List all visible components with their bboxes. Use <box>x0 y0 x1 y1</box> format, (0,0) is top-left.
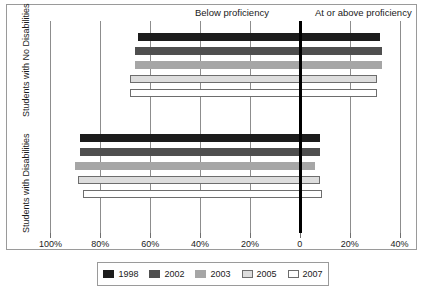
below-proficiency-label: Below proficiency <box>195 7 269 18</box>
bar-students-with-disabilities-1998 <box>80 134 319 142</box>
legend-label: 1998 <box>118 269 138 279</box>
axis-tick <box>50 233 51 238</box>
legend-label: 2002 <box>164 269 184 279</box>
chart-page: Students with No Disabilities Students w… <box>0 0 423 295</box>
axis-tick-label: 0 <box>280 239 320 249</box>
axis-tick <box>400 233 401 238</box>
legend-item-2003[interactable]: 2003 <box>195 269 230 279</box>
axis-tick-label: 40% <box>380 239 420 249</box>
bar-students-with-disabilities-2002 <box>80 148 319 156</box>
bar-students-with-no-disabilities-1998 <box>138 33 380 41</box>
legend-swatch-icon <box>103 270 114 278</box>
plot-area: 100%80%60%40%20%020%40% <box>38 21 412 233</box>
axis-tick-label: 60% <box>130 239 170 249</box>
legend-swatch-icon <box>288 270 299 278</box>
legend-item-1998[interactable]: 1998 <box>103 269 138 279</box>
chart-frame: Students with No Disabilities Students w… <box>6 4 417 250</box>
legend-swatch-icon <box>195 270 206 278</box>
axis-tick <box>350 233 351 238</box>
bar-students-with-no-disabilities-2002 <box>135 47 382 55</box>
legend-swatch-icon <box>242 270 253 278</box>
category-label-disabilities: Students with Disabilities <box>21 133 31 233</box>
axis-tick <box>300 233 301 238</box>
bar-students-with-disabilities-2005 <box>78 176 320 184</box>
axis-tick <box>100 233 101 238</box>
gridline <box>100 21 101 233</box>
legend-label: 2005 <box>257 269 277 279</box>
legend-label: 2007 <box>303 269 323 279</box>
bar-students-with-disabilities-2007 <box>83 190 322 198</box>
gridline <box>400 21 401 233</box>
bar-students-with-no-disabilities-2007 <box>130 89 377 97</box>
bar-students-with-no-disabilities-2005 <box>130 75 377 83</box>
gridline <box>50 21 51 233</box>
category-label-no-disabilities: Students with No Disabilities <box>21 3 31 117</box>
axis-tick <box>150 233 151 238</box>
axis-tick <box>250 233 251 238</box>
legend-item-2005[interactable]: 2005 <box>242 269 277 279</box>
axis-tick-label: 100% <box>30 239 70 249</box>
legend-item-2002[interactable]: 2002 <box>149 269 184 279</box>
axis-tick-label: 40% <box>180 239 220 249</box>
legend-swatch-icon <box>149 270 160 278</box>
axis-tick <box>200 233 201 238</box>
bar-students-with-disabilities-2003 <box>75 162 314 170</box>
axis-tick-label: 80% <box>80 239 120 249</box>
axis-tick-label: 20% <box>330 239 370 249</box>
axis-tick-label: 20% <box>230 239 270 249</box>
zero-axis-line <box>299 21 302 233</box>
legend-label: 2003 <box>210 269 230 279</box>
bar-students-with-no-disabilities-2003 <box>135 61 382 69</box>
at-or-above-proficiency-label: At or above proficiency <box>315 7 412 18</box>
legend-item-2007[interactable]: 2007 <box>288 269 323 279</box>
chart-legend: 19982002200320052007 <box>97 262 329 286</box>
